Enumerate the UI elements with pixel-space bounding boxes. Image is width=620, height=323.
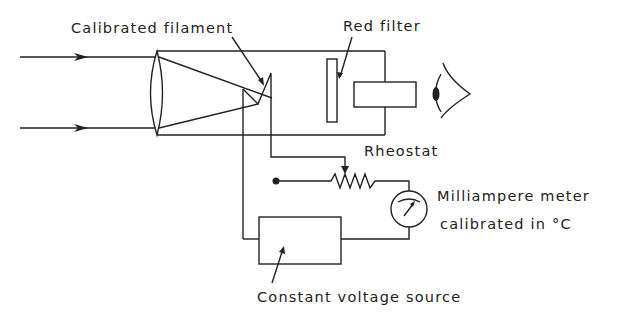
milliampere-meter	[391, 191, 427, 227]
filament-label: Calibrated filament	[71, 20, 233, 36]
pyrometer-diagram: Calibrated filament Red filter Rheostat …	[0, 0, 620, 323]
meter-label-line2: calibrated in °C	[440, 216, 572, 232]
calibrated-filament	[243, 73, 349, 239]
filter-label: Red filter	[343, 18, 421, 34]
red-filter	[327, 59, 337, 122]
objective-lens	[151, 51, 163, 135]
observer-eye	[433, 63, 471, 118]
rheostat-label: Rheostat	[364, 143, 438, 159]
eyepiece	[354, 82, 416, 107]
source-label: Constant voltage source	[257, 289, 461, 305]
constant-voltage-source	[259, 217, 341, 264]
meter-label-line1: Milliampere meter	[437, 188, 590, 204]
rheostat	[273, 174, 410, 191]
incoming-light-rays	[20, 53, 156, 132]
